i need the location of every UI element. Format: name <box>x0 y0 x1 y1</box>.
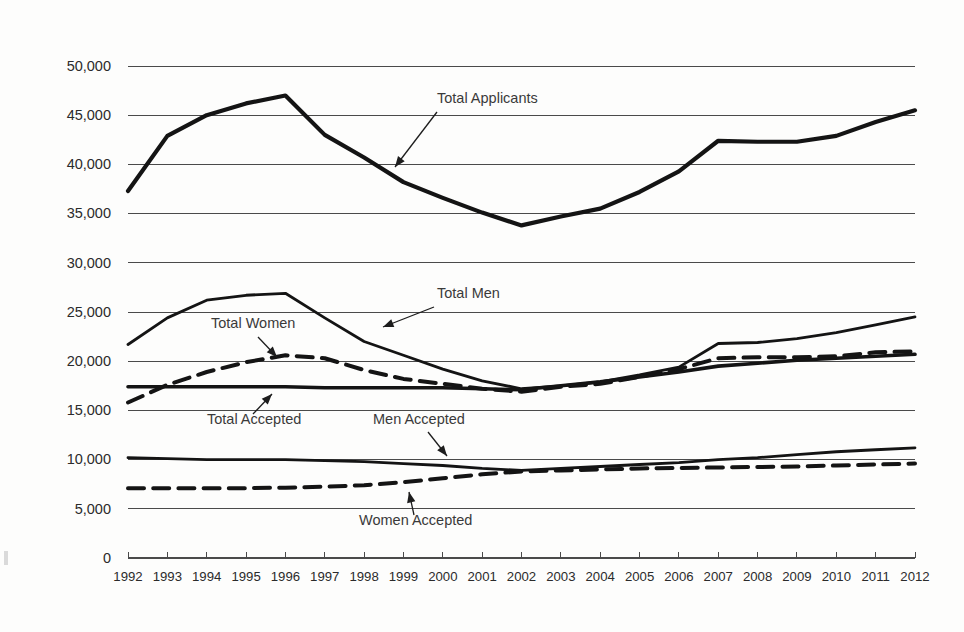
annotation-label-total-women: Total Women <box>211 315 295 331</box>
x-tick-label: 1993 <box>153 569 182 584</box>
y-tick-label: 25,000 <box>67 304 111 320</box>
annotation-label-total-men: Total Men <box>437 285 500 301</box>
series-line-total-men <box>128 293 915 388</box>
x-tick-label: 2003 <box>546 569 575 584</box>
x-axis-tick-labels: 1992199319941995199619971998199920002001… <box>113 569 929 584</box>
x-tick-label: 1996 <box>271 569 300 584</box>
y-axis-tick-labels: 05,00010,00015,00020,00025,00030,00035,0… <box>67 58 111 566</box>
x-tick-label: 1994 <box>192 569 221 584</box>
y-tick-label: 20,000 <box>67 353 111 369</box>
page-edge-artifact <box>4 551 8 565</box>
x-tick-label: 2008 <box>743 569 772 584</box>
x-tick-label: 2002 <box>507 569 536 584</box>
y-tick-label: 40,000 <box>67 156 111 172</box>
x-tick-label: 2011 <box>861 569 889 584</box>
x-tick-label: 2007 <box>704 569 733 584</box>
annotation-arrowhead-men-accepted <box>437 445 447 456</box>
y-tick-label: 5,000 <box>75 501 111 517</box>
annotation-label-men-accepted: Men Accepted <box>373 411 465 427</box>
x-tick-label: 2005 <box>625 569 654 584</box>
x-tick-label: 1997 <box>310 569 339 584</box>
annotation-label-total-applicants: Total Applicants <box>437 90 538 106</box>
data-series <box>128 96 915 489</box>
x-tick-label: 1998 <box>349 569 378 584</box>
x-tick-label: 2001 <box>467 569 496 584</box>
x-tick-label: 2010 <box>822 569 851 584</box>
y-tick-label: 0 <box>103 550 111 566</box>
y-tick-label: 45,000 <box>67 107 111 123</box>
x-tick-label: 2009 <box>782 569 811 584</box>
y-tick-label: 15,000 <box>67 402 111 418</box>
series-line-women-accepted <box>128 464 915 489</box>
annotation-arrowhead-women-accepted <box>407 492 415 503</box>
annotation-arrowhead-total-applicants <box>395 156 405 167</box>
y-tick-label: 10,000 <box>67 451 111 467</box>
annotation-label-women-accepted: Women Accepted <box>359 512 472 528</box>
y-tick-label: 30,000 <box>67 255 111 271</box>
x-axis <box>128 552 915 558</box>
x-tick-label: 2000 <box>428 569 457 584</box>
x-tick-label: 1999 <box>389 569 418 584</box>
line-chart: 05,00010,00015,00020,00025,00030,00035,0… <box>0 0 964 632</box>
annotation-arrowhead-total-men <box>383 319 394 327</box>
x-tick-label: 1992 <box>113 569 142 584</box>
y-tick-label: 50,000 <box>67 58 111 74</box>
x-tick-label: 2012 <box>900 569 929 584</box>
chart-container: 05,00010,00015,00020,00025,00030,00035,0… <box>0 0 964 632</box>
series-line-total-accepted <box>128 354 915 389</box>
x-tick-label: 2004 <box>586 569 615 584</box>
x-tick-label: 2006 <box>664 569 693 584</box>
y-tick-label: 35,000 <box>67 205 111 221</box>
x-tick-label: 1995 <box>231 569 260 584</box>
